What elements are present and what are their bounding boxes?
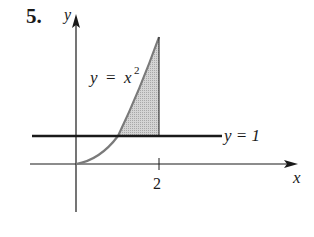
problem-number: 5. [26, 4, 42, 28]
y-axis-label: y [62, 6, 72, 24]
x-axis-label: x [292, 168, 301, 187]
curve-label: y = x 2 [88, 64, 140, 87]
svg-text:=: = [106, 68, 116, 87]
svg-text:2: 2 [134, 64, 140, 76]
figure: 5. y x 2 y = x 2 y = 1 [0, 0, 314, 237]
svg-text:x: x [123, 68, 132, 87]
svg-text:y: y [88, 68, 98, 87]
line-label: y = 1 [222, 126, 260, 145]
x-tick-label: 2 [153, 175, 161, 192]
